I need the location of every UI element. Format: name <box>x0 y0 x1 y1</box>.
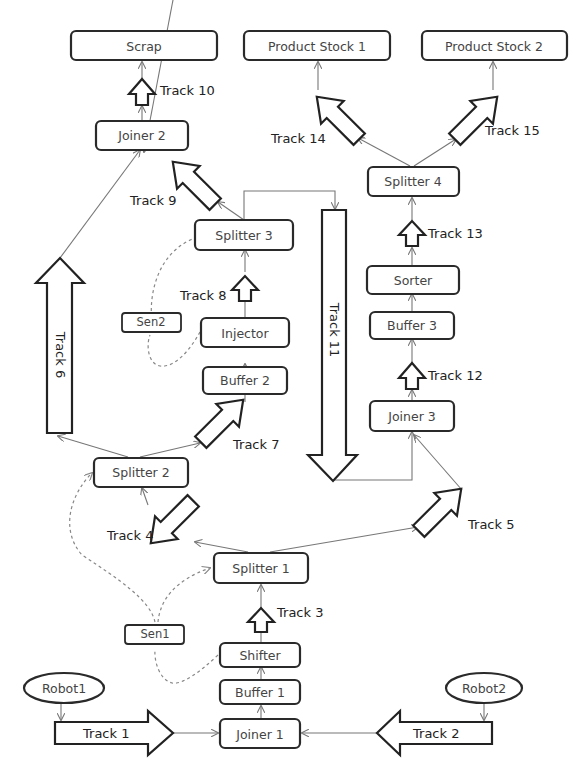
svg-text:Splitter 1: Splitter 1 <box>232 561 289 576</box>
node-buffer-1[interactable]: Buffer 1 <box>220 680 300 704</box>
node-buffer-3[interactable]: Buffer 3 <box>370 312 454 339</box>
node-sorter[interactable]: Sorter <box>367 266 459 294</box>
svg-text:Shifter: Shifter <box>239 648 281 663</box>
svg-text:Buffer 1: Buffer 1 <box>235 685 285 700</box>
edge-track6-joiner2 <box>60 150 140 258</box>
track-3-label: Track 3 <box>276 605 323 620</box>
track-5-arrow <box>407 477 472 542</box>
node-joiner-2[interactable]: Joiner 2 <box>96 121 188 150</box>
svg-text:Joiner 1: Joiner 1 <box>235 727 284 742</box>
track-15-label: Track 15 <box>484 123 540 138</box>
node-splitter-2[interactable]: Splitter 2 <box>94 458 188 487</box>
node-robot1[interactable]: Robot1 <box>24 673 104 703</box>
track-12-label: Track 12 <box>427 368 483 383</box>
node-product-stock-1[interactable]: Product Stock 1 <box>244 31 390 60</box>
svg-text:Splitter 3: Splitter 3 <box>215 228 272 243</box>
edge-splitter4-track15 <box>414 139 456 166</box>
svg-text:Injector: Injector <box>221 326 269 341</box>
edge-track4-splitter2 <box>142 488 148 505</box>
node-robot2[interactable]: Robot2 <box>446 673 522 703</box>
svg-text:Scrap: Scrap <box>126 39 162 54</box>
track-10-arrow <box>129 79 155 105</box>
svg-text:Splitter 2: Splitter 2 <box>112 465 169 480</box>
svg-text:Buffer 3: Buffer 3 <box>387 318 437 333</box>
production-flow-diagram: Track 1 Track 2 Track 3 Track 4 Track 5 … <box>0 0 585 782</box>
svg-text:Product Stock 1: Product Stock 1 <box>268 39 366 54</box>
track-4-arrow <box>139 489 204 554</box>
sensor-link-sen1-splitter1 <box>158 568 210 622</box>
sensor-link-sen1-splitter2 <box>70 473 155 622</box>
node-injector[interactable]: Injector <box>201 318 289 347</box>
node-joiner-1[interactable]: Joiner 1 <box>220 719 300 748</box>
sensor-link-injector-sen2 <box>148 332 200 366</box>
track-10-label: Track 10 <box>159 83 215 98</box>
edge-splitter3-track9 <box>218 202 244 220</box>
track-3-arrow <box>248 608 274 632</box>
node-splitter-4[interactable]: Splitter 4 <box>368 167 459 196</box>
track-8-arrow <box>232 276 258 301</box>
svg-text:Robot2: Robot2 <box>462 681 506 696</box>
svg-text:Sorter: Sorter <box>394 273 433 288</box>
node-joiner-3[interactable]: Joiner 3 <box>370 401 454 431</box>
track-5-label: Track 5 <box>467 517 514 532</box>
svg-text:Buffer 2: Buffer 2 <box>220 373 270 388</box>
track-13-label: Track 13 <box>427 226 483 241</box>
edge-splitter1-track4 <box>195 542 248 552</box>
track-4-label: Track 4 <box>106 528 153 543</box>
node-sen2[interactable]: Sen2 <box>122 313 181 332</box>
edge-track5-joiner3 <box>414 435 462 490</box>
track-8-label: Track 8 <box>179 288 226 303</box>
node-scrap[interactable]: Scrap <box>71 31 217 60</box>
node-shifter[interactable]: Shifter <box>220 643 300 667</box>
svg-text:Splitter 4: Splitter 4 <box>384 174 441 189</box>
sensor-link-shifter-sen1 <box>155 650 218 683</box>
node-sen1[interactable]: Sen1 <box>125 625 184 644</box>
node-buffer-2[interactable]: Buffer 2 <box>203 367 287 394</box>
track-11-label: Track 11 <box>327 302 342 358</box>
svg-text:Sen2: Sen2 <box>137 315 166 329</box>
track-9-label: Track 9 <box>129 193 176 208</box>
track-6-label: Track 6 <box>53 331 68 378</box>
track-12-arrow <box>399 363 425 389</box>
track-2-label: Track 2 <box>412 726 459 741</box>
track-14-label: Track 14 <box>270 131 326 146</box>
node-product-stock-2[interactable]: Product Stock 2 <box>422 31 567 60</box>
track-1-label: Track 1 <box>82 726 129 741</box>
svg-text:Robot1: Robot1 <box>42 681 86 696</box>
track-7-label: Track 7 <box>232 437 279 452</box>
svg-text:Joiner 3: Joiner 3 <box>387 409 436 424</box>
track-13-arrow <box>399 221 425 246</box>
node-splitter-3[interactable]: Splitter 3 <box>195 220 293 250</box>
edge-splitter2-track7 <box>140 443 200 457</box>
node-splitter-1[interactable]: Splitter 1 <box>214 553 308 583</box>
svg-text:Joiner 2: Joiner 2 <box>117 128 166 143</box>
svg-text:Product Stock 2: Product Stock 2 <box>445 39 543 54</box>
edge-splitter4-track14 <box>358 138 410 166</box>
edge-splitter1-track5 <box>270 527 418 552</box>
svg-text:Sen1: Sen1 <box>141 627 170 641</box>
edge-splitter2-track6 <box>58 436 128 457</box>
